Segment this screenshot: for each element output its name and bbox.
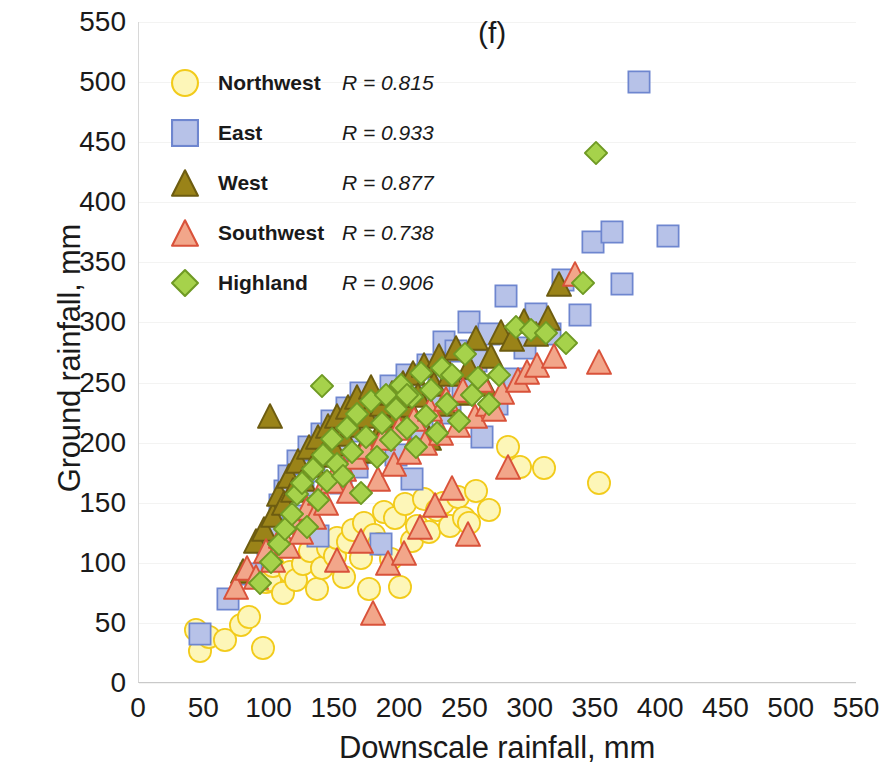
x-tick-label: 150 bbox=[310, 694, 357, 722]
data-point-northwest bbox=[305, 577, 329, 601]
x-tick-label: 500 bbox=[767, 694, 814, 722]
data-point-southwest bbox=[391, 540, 417, 566]
y-tick-label: 400 bbox=[44, 188, 126, 216]
y-tick-label: 550 bbox=[44, 8, 126, 36]
chart-legend: NorthwestR = 0.815EastR = 0.933WestR = 0… bbox=[166, 58, 496, 308]
x-tick-label: 550 bbox=[833, 694, 880, 722]
y-tick-label: 150 bbox=[44, 489, 126, 517]
data-point-east bbox=[611, 272, 634, 295]
data-point-highland bbox=[453, 342, 477, 366]
legend-circle-icon bbox=[166, 69, 204, 97]
y-tick-label: 100 bbox=[44, 549, 126, 577]
y-tick-label: 250 bbox=[44, 369, 126, 397]
y-tick-label: 450 bbox=[44, 128, 126, 156]
data-point-highland bbox=[554, 331, 578, 355]
y-tick-label: 500 bbox=[44, 68, 126, 96]
data-point-highland bbox=[349, 481, 373, 505]
data-point-northwest bbox=[388, 575, 412, 599]
legend-diamond-icon bbox=[166, 269, 204, 297]
legend-correlation-value: R = 0.877 bbox=[342, 171, 434, 195]
legend-series-name: East bbox=[204, 121, 342, 145]
y-tick-label: 300 bbox=[44, 308, 126, 336]
x-tick-label: 100 bbox=[245, 694, 292, 722]
legend-triangle-icon bbox=[166, 169, 204, 197]
scatter-chart-figure: Ground rainfall, mm 05010015020025030035… bbox=[0, 0, 886, 778]
data-point-northwest bbox=[477, 498, 501, 522]
data-point-highland bbox=[395, 383, 419, 407]
legend-correlation-value: R = 0.815 bbox=[342, 71, 434, 95]
data-point-northwest bbox=[357, 577, 381, 601]
gridline bbox=[139, 683, 856, 684]
data-point-highland bbox=[248, 571, 272, 595]
data-point-southwest bbox=[455, 521, 481, 547]
data-point-highland bbox=[487, 363, 511, 387]
data-point-southwest bbox=[348, 528, 374, 554]
legend-series-name: Northwest bbox=[204, 71, 342, 95]
x-axis-tick-labels: 050100150200250300350400450500550 bbox=[0, 694, 886, 734]
legend-square-icon bbox=[166, 119, 204, 147]
data-point-west bbox=[257, 403, 283, 429]
data-point-southwest bbox=[495, 454, 521, 480]
y-tick-label: 50 bbox=[44, 609, 126, 637]
x-tick-label: 200 bbox=[376, 694, 423, 722]
data-point-highland bbox=[310, 374, 334, 398]
legend-item-east[interactable]: EastR = 0.933 bbox=[166, 108, 496, 158]
legend-item-west[interactable]: WestR = 0.877 bbox=[166, 158, 496, 208]
legend-item-northwest[interactable]: NorthwestR = 0.815 bbox=[166, 58, 496, 108]
data-point-northwest bbox=[251, 636, 275, 660]
x-tick-label: 50 bbox=[188, 694, 219, 722]
legend-series-name: Highland bbox=[204, 271, 342, 295]
legend-item-southwest[interactable]: SouthwestR = 0.738 bbox=[166, 208, 496, 258]
y-tick-label: 0 bbox=[44, 669, 126, 697]
data-point-east bbox=[627, 71, 650, 94]
panel-label: (f) bbox=[478, 16, 506, 50]
legend-triangle-icon bbox=[166, 219, 204, 247]
x-tick-label: 350 bbox=[572, 694, 619, 722]
data-point-highland bbox=[447, 409, 471, 433]
data-point-southwest bbox=[360, 600, 386, 626]
data-point-highland bbox=[571, 271, 595, 295]
data-point-northwest bbox=[587, 471, 611, 495]
data-point-east bbox=[189, 622, 212, 645]
data-point-highland bbox=[584, 141, 608, 165]
data-point-highland bbox=[425, 421, 449, 445]
y-tick-label: 350 bbox=[44, 248, 126, 276]
data-point-highland bbox=[477, 392, 501, 416]
data-point-southwest bbox=[586, 349, 612, 375]
data-point-east bbox=[600, 221, 623, 244]
x-axis-title: Downscale rainfall, mm bbox=[138, 730, 856, 766]
data-point-highland bbox=[295, 515, 319, 539]
legend-correlation-value: R = 0.933 bbox=[342, 121, 434, 145]
x-tick-label: 0 bbox=[130, 694, 146, 722]
data-point-east bbox=[494, 285, 517, 308]
legend-correlation-value: R = 0.738 bbox=[342, 221, 434, 245]
x-tick-label: 300 bbox=[506, 694, 553, 722]
data-point-east bbox=[656, 224, 679, 247]
data-point-southwest bbox=[324, 547, 350, 573]
data-point-southwest bbox=[439, 475, 465, 501]
data-point-northwest bbox=[237, 605, 261, 629]
legend-correlation-value: R = 0.906 bbox=[342, 271, 434, 295]
x-tick-label: 450 bbox=[702, 694, 749, 722]
legend-series-name: West bbox=[204, 171, 342, 195]
legend-series-name: Southwest bbox=[204, 221, 342, 245]
data-point-east bbox=[569, 304, 592, 327]
data-point-northwest bbox=[532, 456, 556, 480]
y-tick-label: 200 bbox=[44, 429, 126, 457]
x-tick-label: 250 bbox=[441, 694, 488, 722]
legend-item-highland[interactable]: HighlandR = 0.906 bbox=[166, 258, 496, 308]
x-tick-label: 400 bbox=[637, 694, 684, 722]
y-axis-tick-labels: 050100150200250300350400450500550 bbox=[44, 0, 126, 778]
